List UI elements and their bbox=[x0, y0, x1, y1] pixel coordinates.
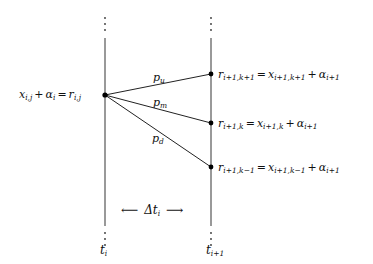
right-arrow-icon: ⟶ bbox=[166, 203, 183, 217]
left-arrow-icon: ⟵ bbox=[121, 203, 138, 217]
interval-label: ⟵Δti⟶ bbox=[121, 204, 183, 218]
right-node-label-down: ri+1,k−1=xi+1,k−1+αi+1 bbox=[218, 162, 340, 175]
right-node-label-middle: ri+1,k=xi+1,k+αi+1 bbox=[218, 118, 318, 131]
left-node-label: xi,j+αi=ri,j bbox=[19, 89, 81, 102]
node-up bbox=[209, 72, 214, 77]
node-down bbox=[209, 165, 214, 170]
time-label-ti: ti bbox=[100, 244, 107, 258]
right-node-label-up: ri+1,k+1=xi+1,k+1+αi+1 bbox=[218, 69, 340, 82]
prob-middle-label: pm bbox=[153, 97, 167, 110]
prob-up-label: pu bbox=[153, 72, 165, 85]
node-left bbox=[102, 92, 107, 97]
tree-diagram-canvas bbox=[0, 0, 373, 264]
time-label-ti1: ti+1 bbox=[206, 244, 224, 258]
top-ellipsis-left bbox=[104, 17, 106, 31]
node-middle bbox=[209, 121, 214, 126]
top-ellipsis-right bbox=[210, 17, 212, 31]
prob-down-label: pd bbox=[152, 133, 164, 146]
